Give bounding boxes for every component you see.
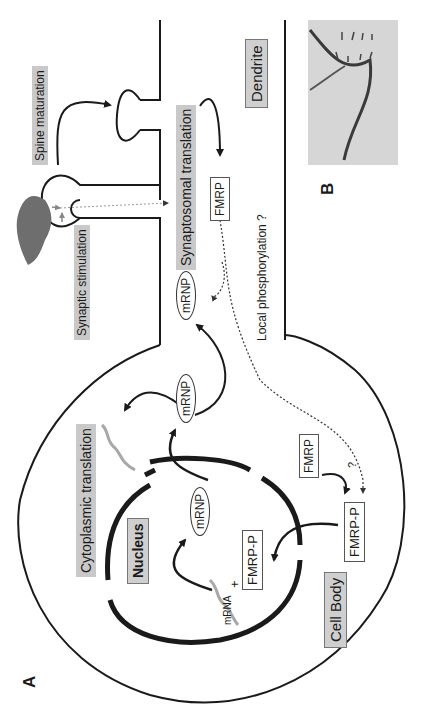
fmrp-cytoplasm-box: FMRP [299, 434, 319, 478]
fmrp-dendrite-box: FMRP [210, 177, 230, 221]
synaptic-stimulation-label: Synaptic stimulation [74, 225, 90, 340]
fmrp-phosphorylation-arrow [322, 474, 346, 493]
presynaptic-terminal [17, 196, 52, 265]
panel-b-letter: B [318, 183, 338, 195]
mrna-strand-cytoplasm [102, 425, 135, 470]
spine-maturation-label: Spine maturation [32, 66, 48, 165]
synaptosomal-translation-arrow [200, 99, 220, 155]
mrnp-to-cytoplasmic-translation-arrow [125, 393, 180, 411]
mrnp-dendrite-oval: mRNP [176, 271, 196, 320]
diagram-canvas [0, 0, 442, 709]
spine-mature [117, 90, 140, 140]
nucleus-label: Nucleus [127, 518, 149, 584]
mrnp-nucleus-oval: mRNP [190, 487, 210, 536]
question-mark: ? [346, 462, 358, 468]
spine-maturation-arrow [57, 102, 110, 165]
fmrp-to-mrnp-dotted [212, 262, 224, 297]
synaptosomal-translation-label: Synaptosomal translation [176, 105, 196, 270]
fmrp-p-nucleus-box: FMRP-P [242, 530, 263, 590]
panel-a-letter: A [20, 676, 40, 688]
mrna-label: mRNA [222, 596, 233, 625]
stimulation-arrows [52, 207, 62, 222]
mrnp-to-dendrite-arrow [195, 325, 225, 415]
local-phosphorylation-dotted [220, 220, 363, 493]
nucleus-mrnp-export-arrow [170, 430, 208, 480]
fmrp-p-import-arrow [274, 524, 338, 560]
cytoplasmic-translation-label: Cytoplasmic translation [76, 424, 96, 577]
fmrp-p-cytoplasm-box: FMRP-P [344, 502, 365, 562]
plus-sign: + [227, 580, 242, 588]
mrna-to-mrnp-arrow [174, 540, 212, 590]
cell-body-label: Cell Body [324, 572, 347, 648]
mrnp-cytoplasm-oval: mRNP [176, 374, 196, 423]
stimulation-to-synaptosome-dotted [60, 203, 168, 208]
dendrite-label: Dendrite [245, 39, 268, 108]
local-phosphorylation-label: Local phosphorylation ? [255, 214, 269, 341]
